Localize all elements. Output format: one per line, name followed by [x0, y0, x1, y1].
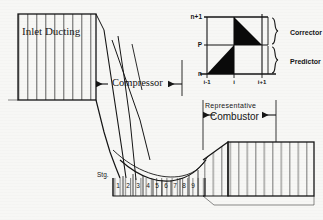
- representative-label: Representative: [205, 102, 256, 109]
- inset-ytick-n: n: [186, 70, 202, 77]
- combustor-section: [203, 142, 314, 205]
- corrector-brace: [272, 18, 278, 44]
- stage-number: 9: [189, 182, 197, 189]
- stage-number: 7: [171, 182, 179, 189]
- compressor-label: Compressor: [112, 78, 163, 89]
- figure-canvas: Inlet Ducting Compressor Representative …: [0, 0, 323, 220]
- inset-xtick-i: i: [225, 79, 243, 85]
- inlet-ducting-label: Inlet Ducting: [22, 26, 80, 37]
- stage-prefix-label: Stg.: [97, 172, 109, 179]
- combustor-label: Combustor: [210, 112, 259, 122]
- corrector-label: Corrector: [290, 29, 322, 36]
- inset-xtick-i-plus-1: i+1: [253, 79, 271, 85]
- inset-ytick-p: P: [186, 41, 202, 48]
- stage-number: 8: [180, 182, 188, 189]
- stage-number: 5: [153, 182, 161, 189]
- predictor-corrector-inset-chart: [200, 14, 278, 78]
- predictor-region: [207, 45, 234, 74]
- stage-number: 4: [144, 182, 152, 189]
- stage-number: 1: [114, 182, 122, 189]
- inset-xtick-i-minus-1: i-1: [198, 79, 216, 85]
- corrector-region: [234, 17, 262, 45]
- predictor-label: Predictor: [290, 58, 321, 65]
- stage-number: 2: [124, 182, 132, 189]
- stage-number: 6: [162, 182, 170, 189]
- stage-number: 3: [134, 182, 142, 189]
- predictor-brace: [272, 47, 278, 73]
- compressor-section: [96, 30, 208, 196]
- inset-ytick-n-plus-1: n+1: [186, 13, 202, 20]
